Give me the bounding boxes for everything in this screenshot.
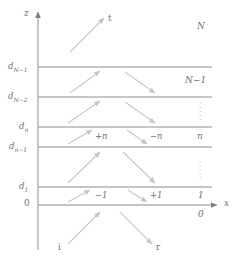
ray-down-region-N-1 bbox=[125, 72, 155, 93]
ray-label-transmitted: t bbox=[108, 14, 111, 23]
ray-down-region-1 bbox=[128, 190, 147, 202]
multilayer-wave-diagram: z x dN−1 dN−2 dn dn−1 d1 0 N N−1 ..... n… bbox=[0, 0, 245, 265]
ray-up-region-1 bbox=[68, 190, 90, 202]
wave-label-plus-1: +1 bbox=[150, 191, 163, 200]
ray-up-region-mid-upper bbox=[68, 101, 100, 123]
wave-label-minus-1: −1 bbox=[95, 191, 108, 200]
wave-label-plus-n: +n bbox=[95, 132, 108, 141]
ray-incident bbox=[68, 212, 100, 244]
ray-label-incident: i bbox=[58, 243, 61, 252]
interface-label-d-n-1: dn−1 bbox=[9, 142, 27, 153]
region-ellipsis-upper: ..... bbox=[197, 100, 203, 120]
ray-up-region-mid-lower bbox=[68, 152, 100, 183]
region-ellipsis-lower: ..... bbox=[197, 158, 203, 178]
ray-down-region-n bbox=[127, 130, 147, 144]
interface-label-d-1: d1 bbox=[19, 182, 28, 193]
region-label-n: n bbox=[197, 132, 203, 141]
interface-sub-d-N-2: N−2 bbox=[13, 96, 27, 103]
ray-down-region-mid-lower bbox=[123, 152, 155, 183]
origin-label: 0 bbox=[24, 199, 30, 208]
ray-label-reflected: r bbox=[156, 243, 160, 252]
ray-up-region-n bbox=[68, 130, 92, 144]
ray-transmitted-arrow bbox=[70, 18, 104, 52]
ray-reflected bbox=[120, 212, 152, 244]
ray-up-region-N-1 bbox=[70, 71, 100, 93]
diagram-canvas bbox=[0, 0, 245, 265]
z-axis-label: z bbox=[24, 9, 29, 18]
x-axis-label: x bbox=[224, 199, 229, 208]
region-label-N: N bbox=[197, 22, 205, 31]
interface-sub-d-N-1: N−1 bbox=[13, 66, 27, 73]
interface-label-d-N-2: dN−2 bbox=[8, 92, 28, 103]
interface-sub-d-n: n bbox=[24, 126, 28, 133]
interface-sub-d-1: 1 bbox=[24, 186, 28, 193]
interface-label-d-n: dn bbox=[19, 122, 28, 133]
ray-down-region-mid-upper bbox=[125, 102, 155, 123]
interface-sub-d-n-1: n−1 bbox=[14, 146, 27, 153]
region-label-0: 0 bbox=[198, 210, 204, 219]
wave-label-minus-n: −n bbox=[150, 132, 163, 141]
region-label-N-1: N−1 bbox=[185, 76, 206, 85]
interface-label-d-N-1: dN−1 bbox=[8, 62, 28, 73]
region-label-1: 1 bbox=[198, 191, 204, 200]
